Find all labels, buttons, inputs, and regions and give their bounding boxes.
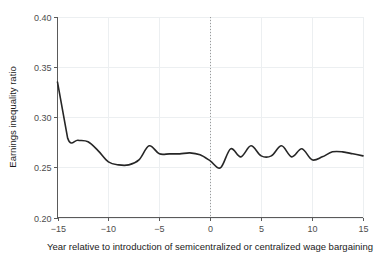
x-tick-label: 15 <box>358 224 368 234</box>
x-tick-label: 0 <box>208 224 213 234</box>
y-tick-label: 0.40 <box>34 13 52 23</box>
y-axis-ticks-group: 0.200.250.300.350.40 <box>34 13 58 224</box>
x-tick-label: −10 <box>101 224 116 234</box>
x-axis-ticks-group: −15−10−5051015 <box>51 218 369 234</box>
y-tick-label: 0.35 <box>34 63 52 73</box>
chart-canvas: 0.200.250.300.350.40 −15−10−5051015 Earn… <box>0 0 381 262</box>
x-tick-label: −15 <box>51 224 66 234</box>
y-axis-title: Earnings inequality ratio <box>7 66 18 167</box>
x-tick-label: 10 <box>307 224 317 234</box>
x-tick-label: 5 <box>259 224 264 234</box>
x-tick-label: −5 <box>154 224 164 234</box>
y-tick-label: 0.30 <box>34 113 52 123</box>
y-tick-label: 0.25 <box>34 163 52 173</box>
x-axis-title: Year relative to introduction of semicen… <box>47 241 373 252</box>
y-tick-label: 0.20 <box>34 214 52 224</box>
chart-figure: 0.200.250.300.350.40 −15−10−5051015 Earn… <box>0 0 381 262</box>
